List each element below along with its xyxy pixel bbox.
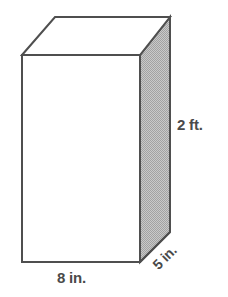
prism-front-face (22, 55, 140, 262)
rectangular-prism-figure (0, 0, 228, 297)
figure-canvas: 2 ft. 8 in. 5 in. (0, 0, 228, 297)
prism-right-face (140, 17, 170, 262)
dimension-label-height: 2 ft. (177, 117, 203, 132)
dimension-label-width: 8 in. (57, 270, 86, 285)
